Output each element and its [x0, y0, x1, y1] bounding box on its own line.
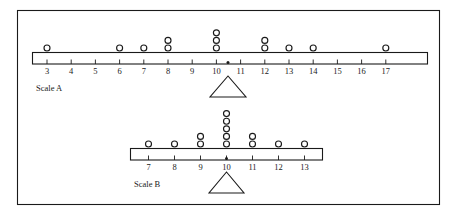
scale-a-dot-13-1 [286, 45, 292, 51]
scale-a-tick-label-10: 10 [212, 66, 221, 76]
scale-a-tick-label-9: 9 [190, 66, 194, 76]
scale-b-tick-label-11: 11 [248, 162, 256, 172]
scale-a-tick-label-15: 15 [333, 66, 342, 76]
scale-b-dot-10-4 [224, 118, 230, 124]
scale-b-dot-10-1 [224, 141, 230, 147]
scale-a-dot-8-1 [165, 45, 171, 51]
scale-a-tick-label-16: 16 [357, 66, 366, 76]
scale-b-dot-10-2 [224, 133, 230, 139]
scale-b-tick-label-9: 9 [198, 162, 202, 172]
scale-b-dot-9-1 [198, 141, 204, 147]
scale-b-tick-label-8: 8 [172, 162, 176, 172]
scale-b-dot-13-1 [302, 141, 308, 147]
scale-b-dot-10-3 [224, 126, 230, 132]
scale-a-dot-7-1 [141, 45, 147, 51]
scale-a-tick-label-3: 3 [45, 66, 49, 76]
scale-a-dot-3-1 [44, 45, 50, 51]
scale-b-tick-label-7: 7 [146, 162, 150, 172]
scale-a-dot-10-3 [213, 30, 219, 36]
scale-a-tick-label-7: 7 [142, 66, 146, 76]
scale-a-dot-8-2 [165, 37, 171, 43]
scale-a-tick-label-8: 8 [166, 66, 170, 76]
scale-b-dot-11-1 [250, 141, 256, 147]
scale-a-dot-12-2 [262, 37, 268, 43]
scale-b-pivot-point [225, 157, 228, 160]
scale-a-tick-label-17: 17 [382, 66, 391, 76]
scale-a-dot-10-2 [213, 37, 219, 43]
scale-a-tick-label-14: 14 [309, 66, 318, 76]
scale-b-tick-label-13: 13 [300, 162, 309, 172]
scale-b-dot-10-5 [224, 111, 230, 117]
scale-a-dot-14-1 [310, 45, 316, 51]
scale-a-tick-label-12: 12 [261, 66, 270, 76]
scale-a-tick-label-6: 6 [117, 66, 121, 76]
dot-plot-figure: 34567891011121314151617 Scale A 78910111… [0, 0, 456, 217]
scale-b-dot-9-2 [198, 133, 204, 139]
scale-a-bar [33, 53, 428, 65]
scale-a-pivot-point [227, 61, 230, 64]
figure-svg: 34567891011121314151617 Scale A 78910111… [0, 0, 456, 217]
scale-a-label: Scale A [36, 83, 63, 93]
scale-a-dot-6-1 [117, 45, 123, 51]
scale-a-tick-label-5: 5 [93, 66, 97, 76]
scale-a-tick-label-13: 13 [285, 66, 294, 76]
scale-a-dot-12-1 [262, 45, 268, 51]
scale-a-dot-17-1 [383, 45, 389, 51]
scale-b-dot-8-1 [172, 141, 178, 147]
scale-b-tick-label-10: 10 [222, 162, 231, 172]
scale-b-dot-7-1 [146, 141, 152, 147]
scale-b-label: Scale B [134, 179, 161, 189]
outer-frame [18, 11, 440, 205]
scale-a-tick-labels: 34567891011121314151617 [45, 66, 390, 76]
scale-a-tick-label-4: 4 [69, 66, 74, 76]
scale-b-tick-label-12: 12 [274, 162, 283, 172]
scale-a-dot-10-1 [213, 45, 219, 51]
scale-b-dot-11-2 [250, 133, 256, 139]
scale-a-tick-label-11: 11 [237, 66, 245, 76]
scale-b-dot-12-1 [276, 141, 282, 147]
